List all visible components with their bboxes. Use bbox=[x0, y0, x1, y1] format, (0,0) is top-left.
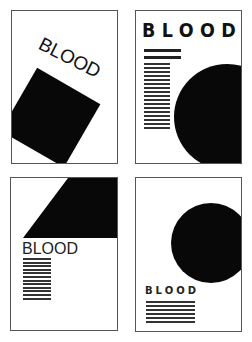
text-line bbox=[23, 298, 51, 300]
text-line bbox=[144, 63, 170, 65]
text-line bbox=[23, 258, 51, 260]
text-line bbox=[144, 119, 170, 121]
text-line bbox=[144, 127, 170, 129]
poster-title: BLOOD bbox=[22, 240, 78, 258]
text-line bbox=[23, 283, 51, 285]
text-line bbox=[146, 301, 195, 303]
text-line bbox=[146, 305, 195, 307]
text-line bbox=[144, 115, 170, 117]
text-line bbox=[146, 317, 195, 319]
text-line bbox=[144, 107, 170, 109]
text-line bbox=[23, 269, 51, 271]
body-text-lines bbox=[144, 63, 170, 129]
text-line bbox=[23, 294, 51, 296]
trapezoid-shape bbox=[11, 178, 118, 238]
body-text-lines bbox=[146, 301, 195, 323]
text-line bbox=[146, 309, 195, 311]
text-line bbox=[144, 103, 170, 105]
text-line bbox=[23, 262, 51, 264]
heading-rule bbox=[144, 49, 181, 52]
circle-shape bbox=[171, 203, 242, 283]
text-line bbox=[144, 95, 170, 97]
poster-title: BLOOD bbox=[142, 19, 242, 41]
text-line bbox=[144, 123, 170, 125]
text-line bbox=[146, 313, 195, 315]
text-line bbox=[23, 280, 51, 282]
text-line bbox=[23, 290, 51, 292]
text-line bbox=[23, 287, 51, 289]
text-line bbox=[23, 276, 51, 278]
poster-layout-1: BLOOD bbox=[11, 10, 118, 164]
poster-layout-3: BLOOD bbox=[10, 177, 118, 331]
circle-shape bbox=[174, 64, 242, 164]
rotated-square-shape bbox=[11, 68, 100, 164]
poster-layout-2: BLOOD bbox=[135, 10, 242, 164]
text-line bbox=[144, 111, 170, 113]
text-line bbox=[144, 91, 170, 93]
text-line bbox=[144, 75, 170, 77]
text-line bbox=[144, 71, 170, 73]
text-line bbox=[144, 87, 170, 89]
text-line bbox=[144, 83, 170, 85]
text-line bbox=[23, 265, 51, 267]
text-line bbox=[144, 99, 170, 101]
text-line bbox=[144, 79, 170, 81]
poster-layout-4: BLOOD bbox=[135, 177, 242, 332]
body-text-lines bbox=[23, 258, 51, 300]
text-line bbox=[23, 272, 51, 274]
heading-rule bbox=[144, 56, 181, 59]
text-line bbox=[144, 67, 170, 69]
poster-title: BLOOD bbox=[145, 285, 199, 296]
text-line bbox=[146, 321, 195, 323]
